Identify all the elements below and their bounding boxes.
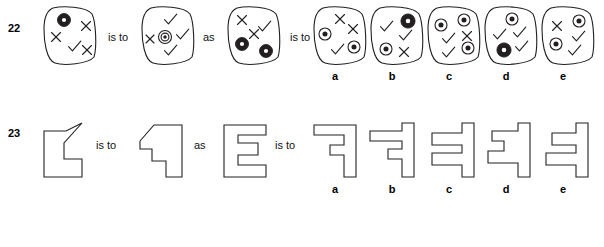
- check-mark: [514, 27, 526, 37]
- q22-option-label-c: c: [439, 70, 459, 82]
- ring-with-dot: [319, 28, 331, 40]
- x-mark: [83, 46, 92, 55]
- q23-option-label-a: a: [325, 183, 345, 195]
- ring-with-dot: [550, 38, 562, 50]
- q22-stem-1: [42, 6, 98, 66]
- concentric-bullseye: [159, 31, 172, 44]
- x-mark: [238, 16, 247, 25]
- ring-with-dot: [462, 42, 474, 54]
- polygon-outline: [314, 125, 356, 177]
- filled-ring-small: [58, 14, 71, 27]
- q22-stem-3: [226, 6, 282, 66]
- ring-with-dot: [573, 15, 585, 27]
- q22-connector-as: as: [203, 31, 215, 43]
- ring-with-dot: [380, 43, 392, 55]
- q23-option-label-e: e: [553, 183, 573, 195]
- polygon-outline: [432, 123, 474, 177]
- q23-option-b[interactable]: [368, 119, 420, 183]
- blob-outline: [542, 7, 594, 64]
- q23-option-a[interactable]: [312, 119, 362, 183]
- q22-option-c[interactable]: [426, 6, 482, 66]
- q23-connector-is-to-2: is to: [275, 139, 295, 151]
- q23-stem-3: [222, 121, 272, 183]
- q23-option-e[interactable]: [538, 119, 592, 183]
- check-mark: [332, 44, 344, 54]
- polygon-outline: [488, 123, 530, 177]
- x-mark: [52, 33, 61, 42]
- check-mark: [443, 33, 455, 43]
- check-mark: [494, 29, 506, 39]
- x-mark: [336, 15, 345, 24]
- blob-outline: [485, 7, 537, 64]
- check-mark: [400, 30, 412, 40]
- q22-stem-2: [140, 6, 196, 66]
- q22-option-label-e: e: [553, 70, 573, 82]
- q22-option-label-b: b: [382, 70, 402, 82]
- polygon-outline: [44, 123, 82, 177]
- polygon-outline: [140, 125, 182, 177]
- q23-stem-1: [42, 121, 88, 183]
- check-mark: [573, 31, 585, 41]
- polygon-outline: [546, 123, 588, 177]
- x-mark: [463, 32, 472, 41]
- ring-with-dot: [435, 19, 447, 31]
- blob-outline: [371, 7, 423, 64]
- q22-option-b[interactable]: [369, 6, 425, 66]
- check-mark: [259, 21, 271, 31]
- blob-outline: [228, 7, 280, 64]
- polygon-outline: [224, 125, 266, 177]
- ring-with-dot: [458, 14, 470, 26]
- q22-option-label-d: d: [496, 70, 516, 82]
- polygon-outline: [370, 123, 414, 177]
- q23-option-label-b: b: [382, 183, 402, 195]
- q22-option-a[interactable]: [312, 6, 368, 66]
- ring-with-dot: [506, 13, 518, 25]
- q23-stem-2: [138, 119, 188, 183]
- q23-connector-as: as: [194, 139, 206, 151]
- check-mark: [177, 29, 189, 39]
- check-mark: [165, 45, 177, 55]
- question-22-number: 22: [8, 22, 20, 34]
- q22-option-label-a: a: [325, 70, 345, 82]
- check-mark: [569, 45, 581, 55]
- check-mark: [381, 21, 393, 31]
- x-mark: [82, 22, 91, 31]
- q23-connector-is-to-1: is to: [96, 139, 116, 151]
- ring-with-dot: [348, 41, 360, 53]
- q22-option-e[interactable]: [540, 6, 596, 66]
- q23-option-c[interactable]: [424, 119, 478, 183]
- check-mark: [69, 41, 81, 51]
- blob-outline: [142, 7, 194, 64]
- x-mark: [553, 22, 562, 31]
- blob-outline: [44, 7, 96, 64]
- filled-ring-small: [497, 43, 511, 57]
- check-mark: [443, 47, 455, 57]
- x-mark: [250, 30, 259, 39]
- question-23-number: 23: [8, 127, 20, 139]
- blob-outline: [314, 7, 366, 64]
- x-mark: [146, 35, 154, 43]
- q22-connector-is-to-1: is to: [108, 31, 128, 43]
- filled-ring-small: [260, 45, 273, 58]
- q23-option-label-d: d: [496, 183, 516, 195]
- filled-ring-small: [401, 14, 415, 28]
- filled-ring-small: [236, 38, 249, 51]
- q22-option-d[interactable]: [483, 6, 539, 66]
- x-mark: [400, 48, 409, 57]
- question-23-row: 23 is to as is to a b c d e: [0, 105, 604, 215]
- q23-option-d[interactable]: [482, 119, 534, 183]
- q23-option-label-c: c: [439, 183, 459, 195]
- blob-outline: [428, 7, 480, 64]
- question-22-row: 22 is to as is to a b c d e: [0, 0, 604, 100]
- x-mark: [349, 25, 358, 34]
- check-mark: [516, 41, 528, 51]
- worksheet-page: 22 is to as is to a b c d e 23 is to as …: [0, 0, 604, 247]
- check-mark: [165, 14, 177, 24]
- q22-connector-is-to-2: is to: [290, 31, 310, 43]
